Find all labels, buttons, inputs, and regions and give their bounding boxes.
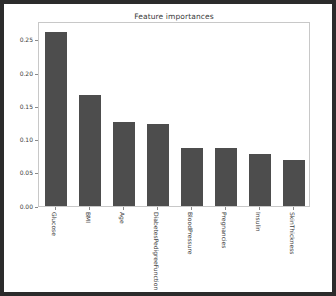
x-tick-mark [89,207,90,210]
y-axis: 0.000.050.100.150.200.25 [4,22,38,207]
x-tick-mark [259,207,260,210]
x-tick-mark [157,207,158,210]
x-tick-label: Age [119,212,126,224]
bar [147,124,168,206]
x-tick-mark [225,207,226,210]
bar-series [39,23,309,206]
figure-canvas: Feature importances 0.000.050.100.150.20… [4,4,332,292]
x-tick-label: Pregnancies [221,212,228,248]
x-tick-label: BMI [85,212,92,223]
x-tick-mark [55,207,56,210]
bar [79,95,100,206]
y-tick-label: 0.15 [20,103,33,110]
x-tick-label: Insulin [255,212,262,232]
x-tick-label: Glucose [51,212,58,236]
y-tick-label: 0.05 [20,169,33,176]
x-tick-label: DiabetesPedigreeFunction [153,212,160,290]
bar [215,148,236,206]
x-tick-label: SkinThickness [289,212,296,254]
y-tick-label: 0.25 [20,36,33,43]
y-tick-label: 0.10 [20,136,33,143]
bar [45,32,66,206]
bar [249,154,270,206]
y-tick-label: 0.20 [20,70,33,77]
y-tick-label: 0.00 [20,203,33,210]
x-tick-mark [191,207,192,210]
x-tick-label: BloodPressure [187,212,194,255]
bar [181,148,202,206]
x-axis: GlucoseBMIAgeDiabetesPedigreeFunctionBlo… [38,207,310,292]
bar [113,122,134,206]
chart-title: Feature importances [38,12,310,21]
bar [283,160,304,206]
figure: Feature importances 0.000.050.100.150.20… [0,0,336,296]
plot-area [38,22,310,207]
x-tick-mark [123,207,124,210]
x-tick-mark [293,207,294,210]
